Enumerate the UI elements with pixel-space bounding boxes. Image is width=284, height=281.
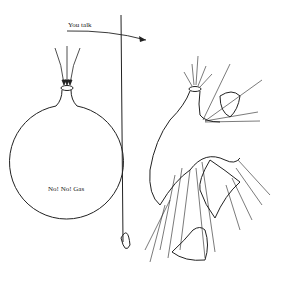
no-gas-label: No! No! Gas: [48, 185, 84, 193]
illustration: [0, 0, 284, 281]
you-talk-label: You talk: [68, 21, 92, 29]
exploding-balloon: [121, 87, 240, 261]
inflow-arrows: [55, 46, 80, 85]
burst-rays: [145, 56, 270, 262]
you-talk-arrow: [67, 31, 146, 42]
intact-balloon: [9, 86, 123, 220]
divider-line: [121, 15, 123, 242]
